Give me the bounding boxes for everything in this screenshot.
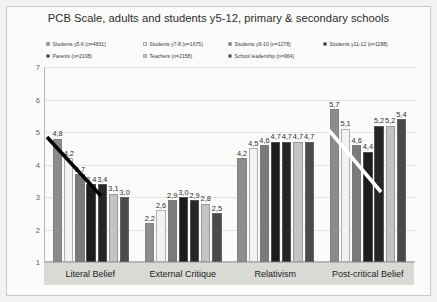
bar-value-label: 4,6 (352, 136, 362, 145)
bar[interactable] (352, 145, 361, 262)
legend-item-school-leadership[interactable]: School leadership (n=964) (228, 53, 323, 59)
bar-wrap: 2,2 (144, 67, 155, 262)
bar[interactable] (64, 158, 73, 262)
bar-wrap: 2,8 (200, 67, 211, 262)
bar-value-label: 4,6 (259, 136, 269, 145)
legend-item-students-y5-6[interactable]: Students y5-6 (n=4831) (46, 41, 143, 47)
bar-wrap: 4,4 (362, 67, 373, 262)
bar[interactable] (386, 126, 395, 263)
bar[interactable] (120, 197, 129, 262)
bar-wrap: 5,7 (329, 67, 340, 262)
bar-value-label: 3,4 (97, 175, 107, 184)
bar[interactable] (341, 129, 350, 262)
legend-label: Parents (n=2108) (53, 53, 93, 59)
chart-container: PCB Scale, adults and students y5-12, pr… (0, 0, 437, 302)
bar-value-label: 4,8 (52, 129, 62, 138)
bar-wrap: 4,7 (270, 67, 281, 262)
bar-value-label: 2,9 (189, 191, 199, 200)
legend-item-students-y11-12[interactable]: Students y11-12 (n=1188) (323, 41, 388, 47)
chart-title: PCB Scale, adults and students y5-12, pr… (0, 12, 437, 24)
bar[interactable] (86, 184, 95, 262)
bar-wrap: 5,2 (385, 67, 396, 262)
legend-item-students-y7-8[interactable]: Students y7-8 (n=1675) (143, 41, 228, 47)
legend-swatch-icon (228, 42, 232, 46)
bar-wrap: 4,7 (292, 67, 303, 262)
bar-wrap: 4,7 (281, 67, 292, 262)
legend-item-teachers[interactable]: Teachers (n=2158) (143, 53, 228, 59)
bar[interactable] (305, 142, 314, 262)
bar[interactable] (179, 197, 188, 262)
legend-label: Teachers (n=2158) (150, 53, 193, 59)
legend-row-2: Parents (n=2108) Teachers (n=2158) Schoo… (46, 50, 406, 62)
bar-wrap: 4,2 (237, 67, 248, 262)
bar-value-label: 3,7 (75, 165, 85, 174)
legend-item-students-y9-10[interactable]: Students y9-10 (n=1278) (228, 41, 323, 47)
bar[interactable] (397, 119, 406, 262)
bar-group: 4,84,23,73,43,43,13,0 (45, 67, 137, 262)
x-axis-category-label: Post-critical Belief (322, 263, 415, 285)
x-axis-category-band: Literal BeliefExternal CritiqueRelativis… (44, 262, 414, 285)
bar-value-label: 4,5 (248, 139, 258, 148)
y-axis-tick-label: 2 (22, 225, 40, 234)
bar-group: 4,24,54,64,74,74,74,7 (230, 67, 322, 262)
bar-wrap: 3,7 (74, 67, 85, 262)
bar-wrap: 2,9 (189, 67, 200, 262)
bar-group: 5,75,14,64,45,25,25,4 (322, 67, 414, 262)
y-axis-tick-label: 3 (22, 193, 40, 202)
bar-value-label: 4,4 (363, 142, 373, 151)
bar[interactable] (212, 213, 221, 262)
bar-wrap: 5,1 (340, 67, 351, 262)
bar-value-label: 2,8 (201, 194, 211, 203)
x-axis-category-label: Literal Belief (44, 263, 137, 285)
bar[interactable] (53, 139, 62, 263)
bar[interactable] (168, 200, 177, 262)
bar[interactable] (363, 152, 372, 263)
bar-wrap: 5,2 (373, 67, 384, 262)
bar-wrap: 5,4 (396, 67, 407, 262)
bar[interactable] (190, 200, 199, 262)
bar[interactable] (260, 145, 269, 262)
bar-wrap: 4,6 (259, 67, 270, 262)
bar[interactable] (237, 158, 246, 262)
x-axis-category-label: Relativism (229, 263, 322, 285)
bar-wrap: 3,0 (178, 67, 189, 262)
bar-value-label: 5,1 (340, 119, 350, 128)
bars: 4,84,23,73,43,43,13,0 (45, 67, 137, 262)
bar-wrap: 3,1 (108, 67, 119, 262)
bars: 2,22,62,93,02,92,82,5 (137, 67, 229, 262)
x-axis-category-label: External Critique (137, 263, 230, 285)
bar[interactable] (145, 223, 154, 262)
bar-value-label: 5,2 (385, 116, 395, 125)
bar-wrap: 2,9 (167, 67, 178, 262)
bar[interactable] (201, 204, 210, 263)
bar[interactable] (271, 142, 280, 262)
y-axis-tick-label: 1 (22, 258, 40, 267)
bar[interactable] (75, 174, 84, 262)
bar-value-label: 2,9 (167, 191, 177, 200)
bar[interactable] (98, 184, 107, 262)
bar[interactable] (374, 126, 383, 263)
bar[interactable] (293, 142, 302, 262)
y-axis-tick-label: 4 (22, 160, 40, 169)
chart-legend: Students y5-6 (n=4831) Students y7-8 (n=… (46, 38, 406, 62)
bar-wrap: 3,4 (97, 67, 108, 262)
bar[interactable] (330, 109, 339, 262)
bar-value-label: 5,7 (329, 100, 339, 109)
bar-wrap: 2,6 (155, 67, 166, 262)
bar-value-label: 4,2 (237, 149, 247, 158)
bar-wrap: 4,2 (63, 67, 74, 262)
bar[interactable] (156, 210, 165, 262)
bar[interactable] (249, 148, 258, 262)
bar[interactable] (109, 194, 118, 262)
bar[interactable] (282, 142, 291, 262)
legend-label: Students y11-12 (n=1188) (330, 41, 388, 47)
bar-wrap: 4,6 (351, 67, 362, 262)
bar-wrap: 4,8 (52, 67, 63, 262)
bar-groups: 4,84,23,73,43,43,13,02,22,62,93,02,92,82… (45, 67, 414, 262)
bar-value-label: 2,6 (156, 201, 166, 210)
legend-item-parents[interactable]: Parents (n=2108) (46, 53, 143, 59)
bar-wrap: 3,0 (119, 67, 130, 262)
legend-swatch-icon (228, 54, 232, 58)
legend-swatch-icon (46, 54, 50, 58)
bar-value-label: 4,7 (304, 132, 314, 141)
